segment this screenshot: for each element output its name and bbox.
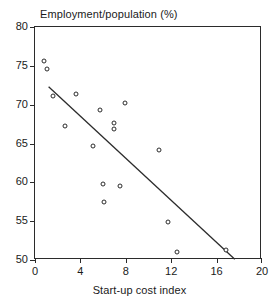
y-tick-label: 55 <box>16 215 28 226</box>
x-tick-label: 12 <box>165 266 177 277</box>
y-tick-mark <box>30 27 35 28</box>
data-point <box>101 181 106 186</box>
x-tick-label: 0 <box>32 266 38 277</box>
y-tick-label: 60 <box>16 176 28 187</box>
scatter-plot-figure: Employment/population (%) 50556065707580… <box>0 0 279 307</box>
data-point <box>102 199 107 204</box>
data-point <box>90 143 95 148</box>
data-point <box>165 219 170 224</box>
data-point <box>97 108 102 113</box>
x-tick-mark <box>126 258 127 263</box>
data-point <box>62 124 67 129</box>
data-point <box>118 184 123 189</box>
y-tick-label: 80 <box>16 21 28 32</box>
x-tick-mark <box>171 258 172 263</box>
data-point <box>42 59 47 64</box>
data-point <box>223 247 228 252</box>
x-tick-mark <box>35 258 36 263</box>
plot-frame: 50556065707580048121620 <box>34 26 261 259</box>
x-tick-mark <box>80 258 81 263</box>
x-tick-label: 4 <box>77 266 83 277</box>
y-tick-mark <box>30 105 35 106</box>
x-axis-title: Start-up cost index <box>0 284 279 296</box>
y-tick-label: 70 <box>16 99 28 110</box>
data-point <box>156 148 161 153</box>
y-tick-mark <box>30 221 35 222</box>
y-tick-mark <box>30 182 35 183</box>
data-point <box>112 121 117 126</box>
y-tick-mark <box>30 66 35 67</box>
data-point <box>45 66 50 71</box>
x-tick-mark <box>261 258 262 263</box>
data-point <box>112 126 117 131</box>
y-tick-label: 50 <box>16 254 28 265</box>
x-tick-label: 8 <box>123 266 129 277</box>
y-axis-title: Employment/population (%) <box>40 8 178 20</box>
y-tick-mark <box>30 144 35 145</box>
data-point <box>73 91 78 96</box>
data-point <box>122 101 127 106</box>
y-tick-label: 65 <box>16 138 28 149</box>
data-point <box>174 250 179 255</box>
x-tick-mark <box>217 258 218 263</box>
x-tick-label: 16 <box>210 266 222 277</box>
y-tick-label: 75 <box>16 60 28 71</box>
regression-line <box>35 27 262 260</box>
data-point <box>51 94 56 99</box>
x-tick-label: 20 <box>256 266 268 277</box>
